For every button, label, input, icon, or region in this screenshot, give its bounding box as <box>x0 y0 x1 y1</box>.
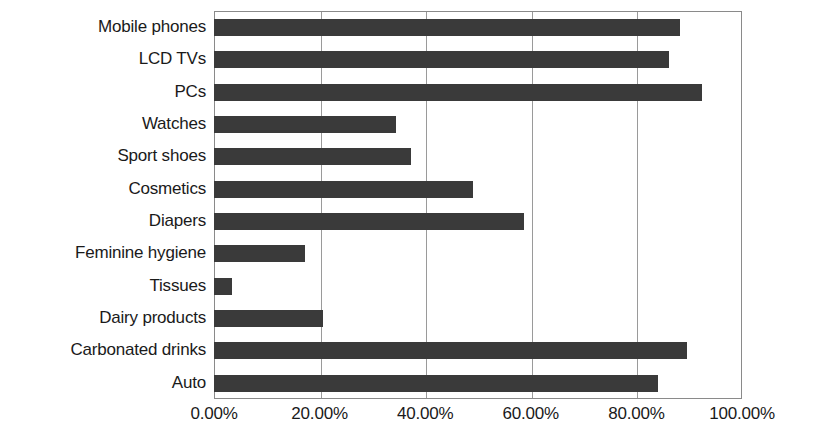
bar-row <box>214 334 742 366</box>
x-tick-label: 60.00% <box>503 404 559 424</box>
x-tick-label: 0.00% <box>190 404 237 424</box>
bar-row <box>214 108 742 140</box>
bar[interactable] <box>214 213 524 230</box>
bar-row <box>214 76 742 108</box>
category-label: PCs <box>0 76 206 108</box>
category-label: Watches <box>0 108 206 140</box>
category-label: Sport shoes <box>0 140 206 172</box>
category-axis-labels: Mobile phonesLCD TVsPCsWatchesSport shoe… <box>0 11 206 399</box>
bar-row <box>214 205 742 237</box>
bar-row <box>214 43 742 75</box>
bar[interactable] <box>214 375 658 392</box>
x-tick-label: 80.00% <box>608 404 664 424</box>
x-tick-label: 100.00% <box>709 404 775 424</box>
category-label: Auto <box>0 367 206 399</box>
x-tick-label: 40.00% <box>397 404 453 424</box>
bar[interactable] <box>214 84 702 101</box>
bar-chart: Mobile phonesLCD TVsPCsWatchesSport shoe… <box>0 0 815 446</box>
category-label: Diapers <box>0 205 206 237</box>
bar[interactable] <box>214 116 396 133</box>
bar[interactable] <box>214 181 473 198</box>
value-axis-labels: 0.00%20.00%40.00%60.00%80.00%100.00% <box>0 404 815 434</box>
category-label: Feminine hygiene <box>0 237 206 269</box>
bar[interactable] <box>214 148 411 165</box>
bars-layer <box>214 11 742 399</box>
category-label: Tissues <box>0 270 206 302</box>
bar[interactable] <box>214 342 687 359</box>
category-label: Mobile phones <box>0 11 206 43</box>
category-label: Carbonated drinks <box>0 334 206 366</box>
category-label: Cosmetics <box>0 173 206 205</box>
bar[interactable] <box>214 310 323 327</box>
bar-row <box>214 270 742 302</box>
category-label: Dairy products <box>0 302 206 334</box>
bar-row <box>214 140 742 172</box>
category-label: LCD TVs <box>0 43 206 75</box>
bar-row <box>214 11 742 43</box>
bar[interactable] <box>214 245 305 262</box>
bar[interactable] <box>214 51 669 68</box>
bar[interactable] <box>214 278 232 295</box>
bar-row <box>214 173 742 205</box>
bar-row <box>214 367 742 399</box>
bar[interactable] <box>214 19 680 36</box>
bar-row <box>214 237 742 269</box>
bar-row <box>214 302 742 334</box>
x-tick-label: 20.00% <box>291 404 347 424</box>
